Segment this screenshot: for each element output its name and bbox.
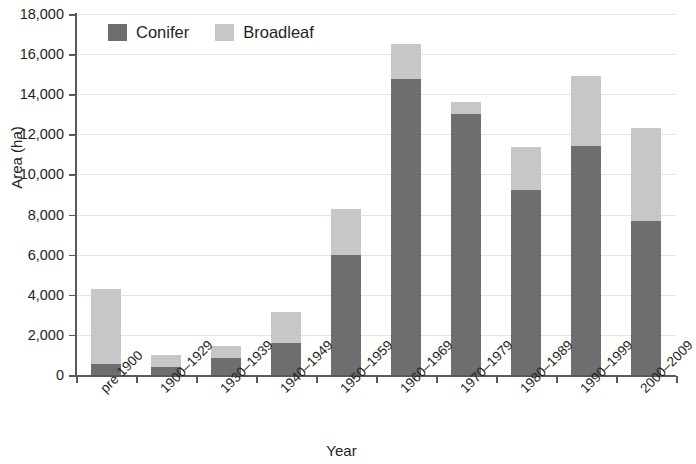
bar-segment-conifer [571,146,601,375]
x-tick-mark [436,376,438,383]
y-tick-mark [69,94,76,96]
y-tick-mark [69,14,76,16]
bar-segment-conifer [451,114,481,375]
y-tick-mark [69,375,76,377]
bar-segment-broadleaf [631,128,661,220]
y-tick-label: 4,000 [0,288,64,303]
gridline [76,54,676,55]
gridline [76,14,676,15]
chart-legend: Conifer Broadleaf [108,21,314,43]
bar-segment-broadleaf [451,102,481,114]
x-tick-mark [556,376,558,383]
x-tick-mark [256,376,258,383]
bar-segment-conifer [331,255,361,375]
bar-1960-1969 [391,44,421,375]
legend-label-conifer: Conifer [136,24,189,41]
x-tick-mark [316,376,318,383]
y-axis-line [75,13,77,376]
y-tick-mark [69,295,76,297]
legend-label-broadleaf: Broadleaf [243,24,314,41]
conifer-swatch [108,24,127,41]
y-tick-mark [69,174,76,176]
bar-segment-broadleaf [511,147,541,190]
legend-entry-conifer: Conifer [108,24,189,41]
bar-1950-1959 [331,209,361,375]
bar-pre-1900 [91,289,121,375]
y-tick-mark [69,54,76,56]
plot-area [76,14,676,375]
bar-segment-broadleaf [391,44,421,79]
y-tick-mark [69,335,76,337]
x-tick-mark [676,376,678,383]
x-tick-mark [76,376,78,383]
bar-1970-1979 [451,102,481,375]
y-tick-label: 2,000 [0,328,64,343]
bar-1980-1989 [511,147,541,375]
legend-entry-broadleaf: Broadleaf [215,24,314,41]
bar-segment-broadleaf [331,209,361,255]
broadleaf-swatch [215,24,234,41]
bar-segment-broadleaf [571,76,601,146]
y-tick-mark [69,215,76,217]
x-tick-mark [616,376,618,383]
bar-segment-conifer [391,79,421,375]
bar-segment-broadleaf [91,289,121,364]
bar-1990-1999 [571,76,601,375]
x-tick-mark [376,376,378,383]
x-tick-mark [196,376,198,383]
y-tick-label: 16,000 [0,47,64,62]
x-tick-mark [136,376,138,383]
bar-2000-2009 [631,128,661,375]
y-tick-mark [69,255,76,257]
y-tick-label: 6,000 [0,248,64,263]
x-tick-mark [496,376,498,383]
y-tick-label: 18,000 [0,7,64,22]
bar-segment-conifer [631,221,661,375]
bar-segment-broadleaf [271,312,301,343]
y-axis-title: Area (ha) [9,98,24,218]
y-tick-mark [69,134,76,136]
y-tick-label: 0 [0,368,64,383]
x-axis-title: Year [0,443,683,458]
